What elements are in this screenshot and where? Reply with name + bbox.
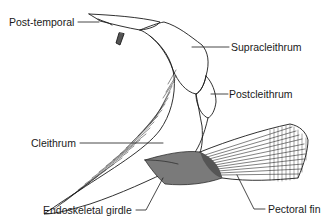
post-temporal-bone xyxy=(89,14,160,45)
endoskeletal-girdle-leader xyxy=(136,178,163,210)
label-endoskeletal-girdle: Endoskeletal girdle xyxy=(43,205,132,216)
pectoral-girdle-drawing xyxy=(0,0,331,224)
label-supracleithrum: Supracleithrum xyxy=(231,42,302,53)
label-postcleithrum: Postcleithrum xyxy=(229,89,293,100)
cleithrum-bone xyxy=(44,36,208,214)
label-post-temporal: Post-temporal xyxy=(9,17,74,28)
diagram-canvas: Post-temporal Supracleithrum Postcleithr… xyxy=(0,0,331,224)
label-cleithrum: Cleithrum xyxy=(31,138,76,149)
pectoral-fin xyxy=(200,124,308,181)
label-pectoral-fin: Pectoral fin xyxy=(268,204,321,215)
